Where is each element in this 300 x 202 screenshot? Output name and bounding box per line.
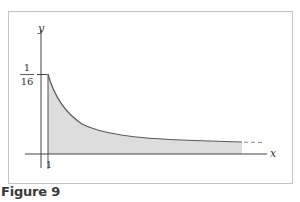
figure: y x 1 16 1 [0,0,300,202]
figure-caption: Figure 9 [1,184,60,199]
y-tick-label-numerator: 1 [24,62,30,73]
x-tick-label-1: 1 [46,159,52,170]
x-axis-label: x [270,147,277,160]
y-axis-label: y [37,22,45,35]
y-tick-label-denominator: 16 [21,76,34,87]
